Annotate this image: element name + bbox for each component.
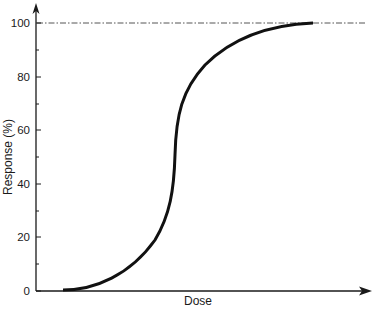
- y-tick-label-60: 60: [17, 124, 30, 136]
- y-axis-label: Response (%): [1, 119, 15, 195]
- x-axis-label: Dose: [184, 294, 212, 308]
- y-tick-label-20: 20: [17, 231, 30, 243]
- y-tick-label-0: 0: [24, 285, 30, 297]
- dose-response-curve: [63, 23, 313, 290]
- y-tick-label-100: 100: [11, 17, 30, 29]
- y-tick-label-40: 40: [17, 178, 30, 190]
- dose-response-chart: 0 20 40 60 80 100 Response (%) Dose: [0, 0, 375, 312]
- y-tick-label-80: 80: [17, 71, 30, 83]
